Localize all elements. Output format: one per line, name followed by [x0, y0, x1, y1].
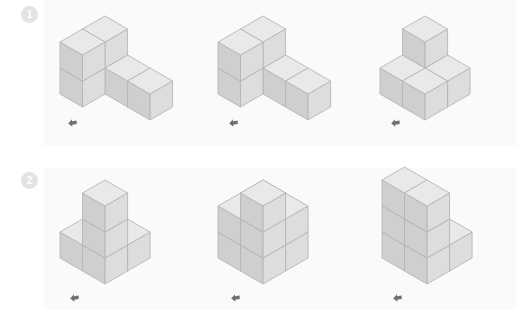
isometric-cube-group [58, 14, 175, 122]
arrow-marker-glyph [390, 118, 401, 128]
arrow-marker-icon [230, 293, 241, 303]
arrow-marker-icon [228, 118, 239, 128]
isometric-cube-group [216, 14, 333, 122]
cube-exercise-page: 1 2 [0, 0, 525, 335]
exercise-row-2: 2 [0, 168, 525, 328]
cube-figure-1-3[interactable] [378, 14, 472, 122]
cube-figure-2-1[interactable] [58, 178, 152, 286]
row-badge-1: 1 [21, 6, 38, 23]
arrow-marker-glyph [67, 118, 78, 128]
arrow-marker-glyph [228, 118, 239, 128]
arrow-marker-icon [392, 293, 403, 303]
cube-figure-2-2[interactable] [216, 178, 310, 286]
arrow-marker-glyph [69, 293, 80, 303]
cube-figure-1-1[interactable] [58, 14, 175, 122]
row-badge-2: 2 [21, 172, 38, 189]
isometric-cube-group [378, 14, 472, 122]
arrow-marker-glyph [392, 293, 403, 303]
figure-panel-2 [44, 168, 516, 310]
arrow-marker-glyph [230, 293, 241, 303]
cube-figure-1-2[interactable] [216, 14, 333, 122]
figure-panel-1 [44, 0, 516, 146]
isometric-cube-group [58, 178, 152, 286]
arrow-marker-icon [69, 293, 80, 303]
arrow-marker-icon [67, 118, 78, 128]
exercise-row-1: 1 [0, 0, 525, 160]
isometric-cube-group [216, 178, 310, 286]
arrow-marker-icon [390, 118, 401, 128]
isometric-cube-group [380, 165, 474, 286]
cube-figure-2-3[interactable] [380, 165, 474, 286]
